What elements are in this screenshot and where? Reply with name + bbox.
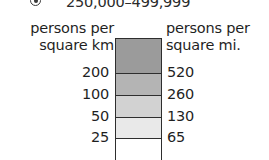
population-density-legend: persons per square km persons per square… [0, 18, 269, 160]
legend-heading-metric: persons per square km [18, 20, 114, 54]
legend-swatch-column [115, 38, 162, 160]
legend-heading-imperial-line2: square mi. [166, 37, 269, 54]
legend-break-value-imperial: 130 [167, 109, 263, 124]
legend-heading-imperial: persons per square mi. [166, 20, 269, 54]
legend-heading-metric-line2: square km [18, 37, 114, 54]
legend-break-value-imperial: 260 [167, 87, 263, 102]
population-class-row: 250,000–499,999 [0, 0, 269, 10]
circle-dot-icon [30, 0, 41, 6]
legend-swatch-band-50-100 [116, 95, 161, 117]
legend-heading-imperial-line1: persons per [166, 20, 269, 37]
legend-break-value-metric: 25 [18, 130, 109, 145]
legend-break-value-metric: 50 [18, 109, 109, 124]
legend-break-value-metric: 100 [18, 87, 109, 102]
legend-swatch-band-100-200 [116, 73, 161, 95]
legend-break-value-imperial: 520 [167, 65, 263, 80]
legend-break-value-metric: 200 [18, 65, 109, 80]
population-class-label: 250,000–499,999 [66, 0, 190, 10]
legend-swatch-band-over-200 [116, 39, 161, 73]
legend-heading-metric-line1: persons per [18, 20, 114, 37]
legend-swatch-band-25-50 [116, 117, 161, 138]
legend-swatch-band-under-25 [116, 138, 161, 160]
legend-break-value-imperial: 65 [167, 130, 263, 145]
